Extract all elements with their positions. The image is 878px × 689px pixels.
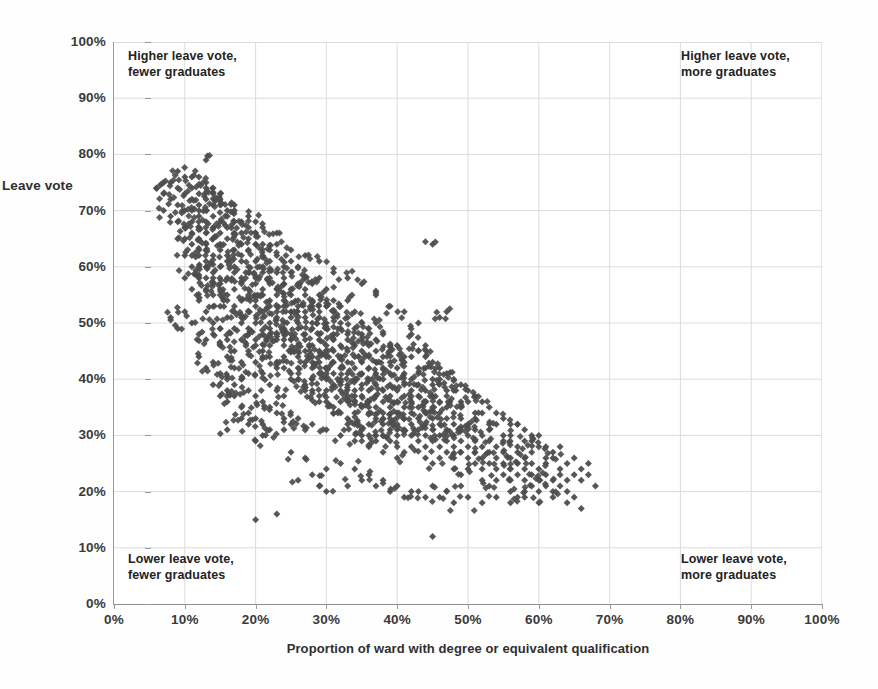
x-axis-ticks: 0%10%20%30%40%50%60%70%80%90%100% bbox=[0, 0, 878, 689]
x-axis-tick-label: 90% bbox=[716, 612, 786, 628]
annotation-top-left-line1: Higher leave vote, bbox=[128, 48, 237, 64]
x-axis-tick-mark bbox=[751, 604, 752, 609]
x-axis-tick-mark bbox=[256, 604, 257, 609]
annotation-top-left-line2: fewer graduates bbox=[128, 64, 237, 80]
x-axis-tick-label: 20% bbox=[221, 612, 291, 628]
x-axis-tick-mark bbox=[468, 604, 469, 609]
x-axis-tick-mark bbox=[539, 604, 540, 609]
scatter-chart: 0%10%20%30%40%50%60%70%80%90%100% 0%10%2… bbox=[0, 0, 878, 689]
x-axis-tick-mark bbox=[185, 604, 186, 609]
x-axis-tick-mark bbox=[610, 604, 611, 609]
x-axis-tick-label: 30% bbox=[291, 612, 361, 628]
x-axis-tick-mark bbox=[326, 604, 327, 609]
x-axis-tick-label: 70% bbox=[575, 612, 645, 628]
annotation-bottom-left-line2: fewer graduates bbox=[128, 567, 234, 583]
x-axis-tick-label: 80% bbox=[645, 612, 715, 628]
annotation-bottom-right-line2: more graduates bbox=[681, 567, 787, 583]
x-axis-tick-mark bbox=[114, 604, 115, 609]
x-axis-title: Proportion of ward with degree or equiva… bbox=[114, 641, 822, 656]
x-axis-tick-label: 50% bbox=[433, 612, 503, 628]
annotation-bottom-right: Lower leave vote, more graduates bbox=[681, 551, 787, 583]
annotation-bottom-left: Lower leave vote, fewer graduates bbox=[128, 551, 234, 583]
x-axis-tick-mark bbox=[822, 604, 823, 609]
y-axis-title: Leave vote bbox=[2, 178, 73, 193]
x-axis-tick-label: 10% bbox=[150, 612, 220, 628]
x-axis-tick-mark bbox=[680, 604, 681, 609]
annotation-top-right: Higher leave vote, more graduates bbox=[681, 48, 790, 80]
annotation-top-right-line2: more graduates bbox=[681, 64, 790, 80]
annotation-top-right-line1: Higher leave vote, bbox=[681, 48, 790, 64]
annotation-top-left: Higher leave vote, fewer graduates bbox=[128, 48, 237, 80]
x-axis-tick-mark bbox=[397, 604, 398, 609]
x-axis-tick-label: 0% bbox=[79, 612, 149, 628]
x-axis-tick-label: 40% bbox=[362, 612, 432, 628]
annotation-bottom-right-line1: Lower leave vote, bbox=[681, 551, 787, 567]
x-axis-tick-label: 60% bbox=[504, 612, 574, 628]
annotation-bottom-left-line1: Lower leave vote, bbox=[128, 551, 234, 567]
x-axis-tick-label: 100% bbox=[787, 612, 857, 628]
